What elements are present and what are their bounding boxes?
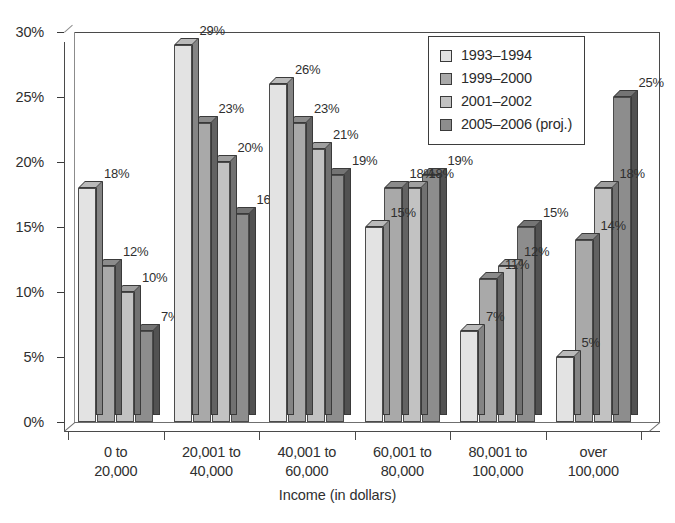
x-axis-tick-mark: [68, 431, 69, 440]
bar: [78, 181, 96, 422]
bar: [365, 220, 383, 422]
legend-item: 2005–2006 (proj.): [440, 113, 572, 136]
y-axis-tick-label: 0%: [23, 415, 44, 430]
x-axis-tick-mark: [450, 431, 451, 440]
bar: [269, 77, 287, 422]
y-axis-tick-mark: [57, 32, 64, 33]
bar-chart: 0%5%10%15%20%25%30% 7%10%12%18%16%20%23%…: [0, 0, 675, 523]
x-axis-ticks: [64, 431, 660, 441]
x-axis-category-label-line: over: [546, 443, 642, 462]
legend-item-label: 2001–2002: [461, 94, 532, 109]
bar-side-face: [134, 285, 141, 415]
y-axis-tick-mark: [57, 422, 64, 423]
x-axis-tick-mark: [355, 431, 356, 440]
y-axis-tick-mark: [57, 227, 64, 228]
bar-value-label: 20%: [238, 141, 263, 154]
y-axis-tick-label: 25%: [16, 90, 44, 105]
bar-group: 16%20%23%29%: [174, 21, 257, 431]
bar-value-label: 18%: [104, 167, 129, 180]
x-axis-tick-mark: [641, 431, 642, 440]
bar-group: 19%21%23%26%: [269, 21, 352, 431]
bar-side-face: [516, 259, 523, 415]
x-axis-category-label-line: 100,000: [450, 462, 546, 481]
bar-front-face: [174, 45, 192, 422]
y-axis-tick-label: 5%: [23, 350, 44, 365]
bar-side-face: [344, 168, 351, 415]
x-axis-category-label: 80,001 to100,000: [450, 443, 546, 481]
bar-side-face: [287, 77, 294, 415]
bar-side-face: [383, 220, 390, 415]
bar-group: 7%10%12%18%: [78, 21, 161, 431]
bar-front-face: [365, 227, 383, 422]
bar-value-label: 5%: [582, 336, 600, 349]
bar-side-face: [593, 233, 600, 415]
x-axis-category-label-line: 100,000: [546, 462, 642, 481]
bar-value-label: 18%: [620, 167, 645, 180]
bar: [174, 38, 192, 422]
y-axis-tick-label: 20%: [16, 155, 44, 170]
x-axis-category-label-line: 0 to: [68, 443, 164, 462]
x-axis-tick-mark: [164, 431, 165, 440]
bar-side-face: [115, 259, 122, 415]
legend-item: 1999–2000: [440, 67, 572, 90]
bar-front-face: [78, 188, 96, 422]
y-axis-tick-label: 30%: [16, 25, 44, 40]
x-axis-category-label: 60,001 to80,000: [355, 443, 451, 481]
bar: [556, 350, 574, 422]
bar-side-face: [478, 324, 485, 415]
bar-value-label: 10%: [142, 271, 167, 284]
x-axis-category-label-line: 80,001 to: [450, 443, 546, 462]
legend-item-label: 1999–2000: [461, 71, 532, 86]
bar-value-label: 14%: [601, 219, 626, 232]
bar-value-label: 11%: [505, 258, 529, 271]
x-axis-category-label-line: 60,000: [259, 462, 355, 481]
bar-side-face: [249, 207, 256, 415]
bar-side-face: [153, 324, 160, 415]
x-axis-category-label: 0 to20,000: [68, 443, 164, 481]
y-axis-tick-mark: [57, 292, 64, 293]
legend-swatch-icon: [440, 50, 452, 62]
x-axis-title: Income (in dollars): [0, 487, 675, 503]
bar-side-face: [631, 90, 638, 415]
bar-side-face: [211, 116, 218, 415]
x-axis-category-label-line: 60,001 to: [355, 443, 451, 462]
bar-value-label: 25%: [639, 76, 664, 89]
y-axis-tick-label: 15%: [16, 220, 44, 235]
y-axis-tick-label: 10%: [16, 285, 44, 300]
y-axis-tick-mark: [57, 357, 64, 358]
x-axis-tick-mark: [259, 431, 260, 440]
y-axis: 0%5%10%15%20%25%30%: [0, 0, 56, 523]
y-axis-tick-mark: [57, 162, 64, 163]
x-axis-category-label-line: 40,001 to: [259, 443, 355, 462]
legend-item-label: 1993–1994: [461, 48, 532, 63]
x-axis-category-label: over100,000: [546, 443, 642, 481]
bar-front-face: [556, 357, 574, 422]
x-axis-category-label-line: 20,001 to: [164, 443, 260, 462]
x-axis-category-labels: 0 to20,00020,001 to40,00040,001 to60,000…: [64, 443, 660, 489]
bar-side-face: [612, 181, 619, 415]
legend-item: 2001–2002: [440, 90, 572, 113]
x-axis-category-label: 40,001 to60,000: [259, 443, 355, 481]
legend-swatch-icon: [440, 73, 452, 85]
bar-value-label: 29%: [200, 24, 225, 37]
x-axis-tick-mark: [546, 431, 547, 440]
bar: [460, 324, 478, 422]
legend-item-label: 2005–2006 (proj.): [461, 117, 572, 132]
bar-value-label: 7%: [486, 310, 504, 323]
bar-side-face: [325, 142, 332, 415]
bar-side-face: [230, 155, 237, 415]
legend-swatch-icon: [440, 96, 452, 108]
bar-front-face: [460, 331, 478, 422]
bar-value-label: 21%: [333, 128, 358, 141]
bar-side-face: [96, 181, 103, 415]
legend-item: 1993–1994: [440, 44, 572, 67]
x-axis-category-label-line: 20,000: [68, 462, 164, 481]
bar-side-face: [574, 350, 581, 415]
bar-value-label: 15%: [391, 206, 416, 219]
bar-side-face: [440, 168, 447, 415]
legend-swatch-icon: [440, 119, 452, 131]
bar-value-label: 23%: [219, 102, 244, 115]
bar-value-label: 23%: [314, 102, 339, 115]
y-axis-tick-mark: [57, 97, 64, 98]
x-axis-category-label-line: 80,000: [355, 462, 451, 481]
